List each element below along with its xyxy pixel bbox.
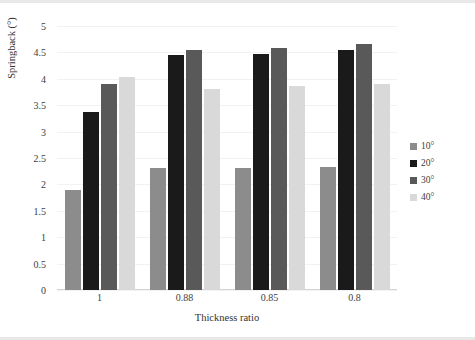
bar[interactable]	[338, 50, 354, 290]
bar[interactable]	[168, 55, 184, 290]
x-tick-label: 0.85	[261, 292, 279, 303]
legend-swatch-icon	[410, 177, 417, 184]
legend-swatch-icon	[410, 160, 417, 167]
bar-group	[57, 26, 142, 290]
legend-label: 40°	[421, 192, 434, 202]
legend-swatch-icon	[410, 194, 417, 201]
bar[interactable]	[186, 50, 202, 290]
y-tick-label: 1	[41, 232, 46, 243]
bar[interactable]	[83, 112, 99, 290]
plot-area	[57, 26, 397, 290]
bar[interactable]	[271, 48, 287, 290]
y-tick-label: 2	[41, 179, 46, 190]
bar[interactable]	[320, 167, 336, 290]
y-tick-label: 3	[41, 126, 46, 137]
y-tick-label: 0.5	[34, 258, 47, 269]
bar-group	[312, 26, 397, 290]
scan-edge-top	[0, 0, 475, 3]
legend-item[interactable]: 10°	[410, 141, 434, 151]
bar[interactable]	[150, 168, 166, 290]
chart-figure: 00.511.522.533.544.55 Springback (°) 10.…	[0, 0, 475, 340]
legend-item[interactable]: 20°	[410, 158, 434, 168]
y-tick-label: 5	[41, 21, 46, 32]
y-tick-label: 3.5	[34, 100, 47, 111]
legend-item[interactable]: 30°	[410, 175, 434, 185]
bar[interactable]	[374, 84, 390, 290]
bar-group	[227, 26, 312, 290]
legend-label: 30°	[421, 175, 434, 185]
y-tick-label: 1.5	[34, 205, 47, 216]
x-tick-label: 0.8	[348, 292, 361, 303]
bar[interactable]	[235, 168, 251, 290]
y-tick-label: 2.5	[34, 153, 47, 164]
y-axis-title: Springback (°)	[6, 0, 28, 180]
x-axis-title: Thickness ratio	[57, 312, 397, 323]
bar-group	[142, 26, 227, 290]
bar[interactable]	[356, 44, 372, 290]
x-tick-label: 0.88	[176, 292, 194, 303]
y-tick-label: 4	[41, 73, 46, 84]
bar[interactable]	[119, 77, 135, 290]
bar[interactable]	[253, 54, 269, 290]
legend-label: 10°	[421, 141, 434, 151]
legend-swatch-icon	[410, 143, 417, 150]
legend: 10°20°30°40°	[410, 141, 434, 202]
legend-label: 20°	[421, 158, 434, 168]
bar[interactable]	[289, 86, 305, 290]
y-tick-label: 0	[41, 285, 46, 296]
bar[interactable]	[204, 89, 220, 290]
x-tick-label: 1	[97, 292, 102, 303]
legend-item[interactable]: 40°	[410, 192, 434, 202]
gridline	[57, 290, 397, 291]
bar[interactable]	[65, 190, 81, 290]
x-axis-ticks: 10.880.850.8	[57, 292, 397, 308]
bar[interactable]	[101, 84, 117, 290]
y-tick-label: 4.5	[34, 47, 47, 58]
